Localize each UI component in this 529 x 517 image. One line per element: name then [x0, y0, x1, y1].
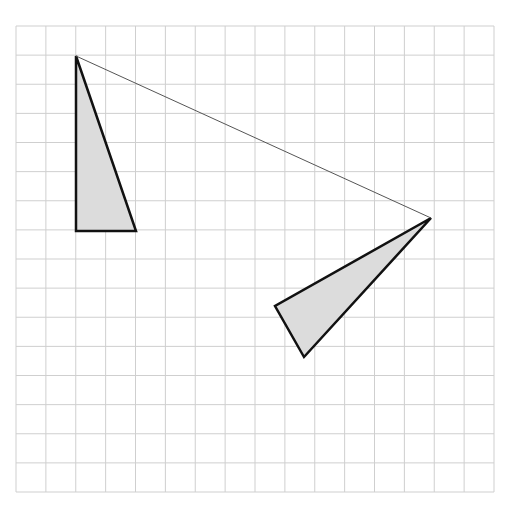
grid-diagram	[0, 0, 529, 517]
